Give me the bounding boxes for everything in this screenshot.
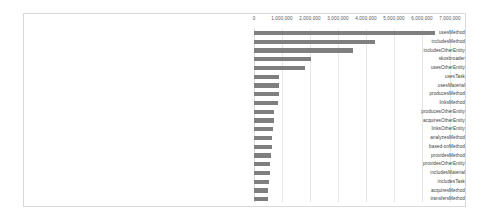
x-tick-label: 0 [253, 16, 256, 21]
bar-row: skosbroader [24, 55, 465, 63]
bar-row: includesOtherEntity [24, 47, 465, 55]
x-tick-label: 4,000,000 [355, 16, 376, 21]
bar-row: producesOtherEntity [24, 108, 465, 116]
bar-row: includesMaterial [24, 169, 465, 177]
category-label: providesOtherEntity [239, 160, 465, 168]
bar-row: transfersMethod [24, 195, 465, 203]
x-tick-label: 6,000,000 [411, 16, 432, 21]
bar [254, 83, 279, 87]
bar [254, 40, 375, 44]
bar-row: based-onMethod [24, 143, 465, 151]
x-tick-label: 7,000,000 [439, 16, 460, 21]
bar-row: usesMethod [24, 29, 465, 37]
x-tick-label: 1,000,000 [271, 16, 292, 21]
bar-rows: usesMethodincludesMethodincludesOtherEnt… [24, 29, 465, 202]
bar-row: acquiresMethod [24, 187, 465, 195]
category-label: transfersMethod [239, 195, 465, 203]
x-axis-tick-labels: 01,000,0002,000,0003,000,0004,000,0005,0… [24, 16, 465, 29]
bar [254, 66, 305, 70]
bar [254, 171, 270, 175]
bar-row: usesOtherEntity [24, 64, 465, 72]
bar [254, 118, 274, 122]
x-tick-label: 5,000,000 [383, 16, 404, 21]
bar-row: analyzesMethod [24, 134, 465, 142]
bar [254, 153, 271, 157]
plot-area: 01,000,0002,000,0003,000,0004,000,0005,0… [24, 14, 465, 206]
x-tick-label: 3,000,000 [327, 16, 348, 21]
bar [254, 48, 353, 52]
bar-row: includesMethod [24, 38, 465, 46]
bar [254, 31, 435, 35]
bar [254, 110, 274, 114]
category-label: includesTask [239, 178, 465, 186]
bar [254, 180, 269, 184]
bar [254, 197, 268, 201]
category-label: providesMethod [239, 152, 465, 160]
bar [254, 188, 268, 192]
bar-row: providesOtherEntity [24, 160, 465, 168]
bar-row: providesMethod [24, 152, 465, 160]
bar [254, 136, 272, 140]
category-label: analyzesMethod [239, 134, 465, 142]
bar-row: includesTask [24, 178, 465, 186]
category-label: acquiresMethod [239, 187, 465, 195]
chart-container: 01,000,0002,000,0003,000,0004,000,0005,0… [23, 13, 466, 207]
bar [254, 92, 279, 96]
bar-row: linksMethod [24, 99, 465, 107]
bar [254, 101, 278, 105]
bar-row: acquiresOtherEntity [24, 117, 465, 125]
bar [254, 75, 279, 79]
x-tick-label: 2,000,000 [299, 16, 320, 21]
bar-row: usesMaterial [24, 82, 465, 90]
bar-row: usesTask [24, 73, 465, 81]
category-label: includesMaterial [239, 169, 465, 177]
bar-row: linksOtherEntity [24, 125, 465, 133]
bar [254, 162, 270, 166]
bar [254, 127, 273, 131]
bar-row: producesMethod [24, 90, 465, 98]
bar [254, 145, 272, 149]
category-label: based-onMethod [239, 143, 465, 151]
bar [254, 57, 311, 61]
